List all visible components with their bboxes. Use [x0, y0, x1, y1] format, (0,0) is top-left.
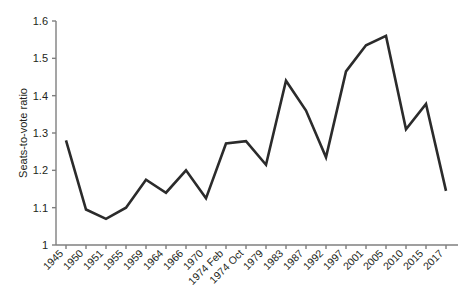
y-axis-tick-label: 1.6 [33, 15, 48, 27]
y-axis-title: Seats-to-vote ratio [17, 88, 29, 178]
y-axis-tick-label: 1.2 [33, 164, 48, 176]
y-axis-tick-label: 1 [42, 239, 48, 251]
chart-canvas: 11.11.21.31.41.51.6 19451950195119551959… [0, 0, 474, 304]
y-axis-tick-label: 1.1 [33, 202, 48, 214]
seats-to-vote-ratio-chart: 11.11.21.31.41.51.6 19451950195119551959… [0, 0, 474, 304]
y-axis-tick-label: 1.4 [33, 90, 48, 102]
y-axis-tick-label: 1.5 [33, 52, 48, 64]
y-axis-tick-label: 1.3 [33, 127, 48, 139]
